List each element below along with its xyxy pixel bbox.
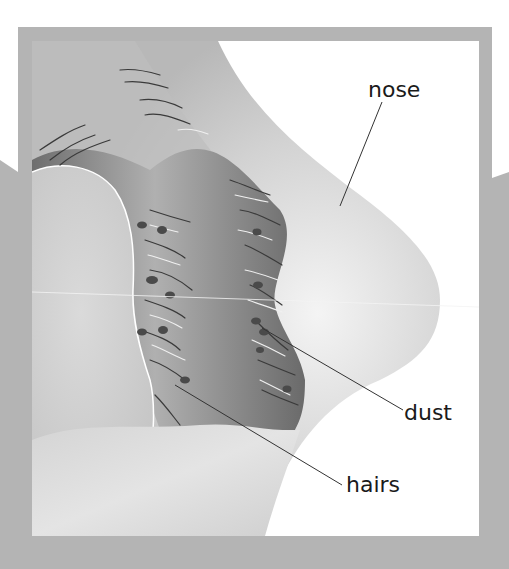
illustration <box>0 0 509 569</box>
nose-diagram: nose dust hairs <box>0 0 509 569</box>
left-side-shape <box>0 160 18 569</box>
label-dust: dust <box>404 402 452 424</box>
lip-shape <box>32 424 300 536</box>
label-hairs: hairs <box>346 474 400 496</box>
right-side-shape <box>492 172 509 569</box>
label-nose: nose <box>368 79 420 101</box>
